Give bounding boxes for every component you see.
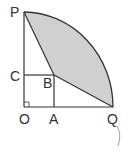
right-angle-marker [24, 102, 29, 107]
label-c: C [10, 68, 20, 84]
label-q: Q [107, 111, 118, 127]
geometry-diagram: P C B O A Q [0, 0, 132, 161]
stray-mark [117, 126, 120, 146]
label-b: B [43, 75, 52, 91]
label-o: O [19, 111, 30, 127]
label-a: A [49, 111, 59, 127]
shaded-region [24, 12, 113, 107]
label-p: P [10, 4, 19, 20]
